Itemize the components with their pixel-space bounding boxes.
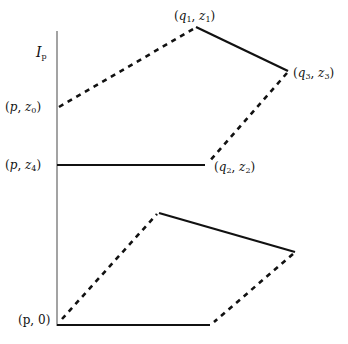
label-q1-z1: (q1, z1) [174,9,215,27]
dashed-edge-z0-q1 [59,28,195,107]
label-p-z4: (p, z4) [5,158,41,176]
dashed-edge-lower-right [214,254,293,322]
dashed-edge-lower-left [62,214,157,319]
dashed-edge-q3-q2 [208,73,287,163]
label-q2-z2: (q2, z2) [214,160,255,178]
label-p-0: (p, 0) [18,313,50,327]
diagram-canvas [0,0,348,344]
label-p-z0: (p, z0) [5,100,41,118]
solid-edge-lower-top [159,213,295,252]
label-q3-z3: (q3, z3) [293,66,334,84]
axis-label-ip: Ip [36,45,47,64]
solid-edge-q1-q3 [196,27,288,71]
